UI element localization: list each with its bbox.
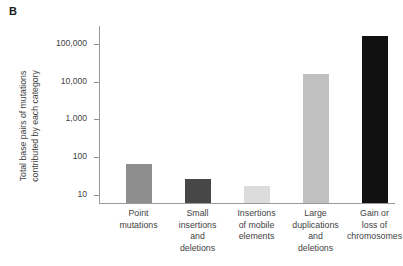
y-axis-line	[99, 26, 100, 204]
y-tick-label: 100,000	[56, 38, 87, 48]
y-tick: 10	[94, 195, 99, 196]
panel-label: B	[9, 5, 17, 17]
bar	[362, 36, 388, 203]
bar	[303, 74, 329, 203]
bar	[126, 164, 152, 203]
y-tick-label: 1,000	[65, 113, 87, 123]
figure-panel-b: B Total base pairs of mutations contribu…	[0, 0, 403, 266]
x-axis-line	[99, 203, 395, 204]
y-tick-label: 100	[73, 151, 87, 161]
bar	[244, 186, 270, 203]
y-tick-label: 10,000	[61, 76, 87, 86]
x-category-label: Gain or loss of chromosomes	[339, 208, 403, 243]
y-axis-title: Total base pairs of mutations contribute…	[17, 31, 41, 221]
y-tick: 100	[94, 157, 99, 158]
y-tick-label: 10	[77, 189, 87, 199]
bar	[185, 179, 211, 203]
y-tick: 1,000	[94, 119, 99, 120]
y-tick: 10,000	[94, 82, 99, 83]
plot-area: 100,00010,0001,00010010 Point mutationsS…	[99, 26, 395, 204]
y-tick: 100,000	[94, 44, 99, 45]
